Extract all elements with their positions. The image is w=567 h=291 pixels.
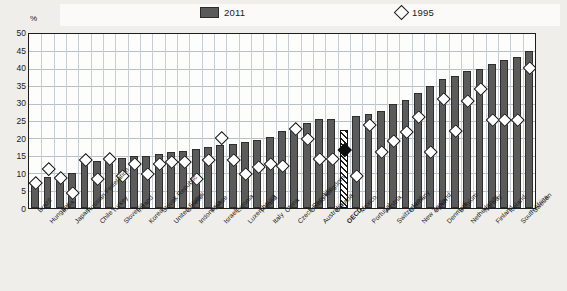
bar-slot[interactable] bbox=[276, 34, 288, 208]
y-axis-tick: 15 bbox=[0, 152, 26, 161]
bar-slot[interactable] bbox=[301, 34, 313, 208]
x-axis-tick-labels: BrazilHungaryIndiaJapanRussian Federatio… bbox=[28, 209, 536, 291]
bar-slot[interactable] bbox=[523, 34, 535, 208]
bar-slot[interactable] bbox=[449, 34, 461, 208]
bar-slot[interactable] bbox=[498, 34, 510, 208]
y-axis-tick: 35 bbox=[0, 82, 26, 91]
y-axis-tick: 50 bbox=[0, 29, 26, 38]
legend-bar-swatch-icon bbox=[200, 7, 219, 18]
bar-south-africa[interactable] bbox=[513, 57, 521, 208]
y-axis-tick: 25 bbox=[0, 117, 26, 126]
bar-slot[interactable] bbox=[375, 34, 387, 208]
bar-slot[interactable] bbox=[264, 34, 276, 208]
y-axis-tick: 0 bbox=[0, 205, 26, 214]
bar-poland[interactable] bbox=[253, 140, 261, 208]
bar-slot[interactable] bbox=[202, 34, 214, 208]
bar-finland[interactable] bbox=[488, 64, 496, 208]
y-axis-tick-labels: 50454035302520151050 bbox=[0, 33, 26, 209]
y-axis-tick: 40 bbox=[0, 64, 26, 73]
bar-slot[interactable] bbox=[473, 34, 485, 208]
bar-slot[interactable] bbox=[128, 34, 140, 208]
bar-slot[interactable] bbox=[350, 34, 362, 208]
bar-slot[interactable] bbox=[288, 34, 300, 208]
bar-slot[interactable] bbox=[227, 34, 239, 208]
bar-slot[interactable] bbox=[66, 34, 78, 208]
bar-slot[interactable] bbox=[399, 34, 411, 208]
bar-slot[interactable] bbox=[436, 34, 448, 208]
bar-belgium[interactable] bbox=[451, 76, 459, 208]
bar-slot[interactable] bbox=[251, 34, 263, 208]
legend-entry-1995: 1995 bbox=[396, 7, 434, 18]
bar-slot[interactable] bbox=[41, 34, 53, 208]
bar-slot[interactable] bbox=[140, 34, 152, 208]
bar-germany[interactable] bbox=[402, 100, 410, 208]
bar-switzerland[interactable] bbox=[389, 104, 397, 208]
y-axis-unit-label: % bbox=[30, 14, 37, 23]
y-axis-tick: 30 bbox=[0, 99, 26, 108]
bar-slot[interactable] bbox=[54, 34, 66, 208]
legend-diamond-icon bbox=[394, 5, 410, 21]
bar-iceland[interactable] bbox=[500, 60, 508, 208]
legend-entry-2011: 2011 bbox=[200, 7, 245, 18]
bar-slot[interactable] bbox=[29, 34, 41, 208]
bar-slot[interactable] bbox=[78, 34, 90, 208]
bar-slot[interactable] bbox=[387, 34, 399, 208]
bar-slot[interactable] bbox=[313, 34, 325, 208]
bar-slot[interactable] bbox=[412, 34, 424, 208]
bar-austria[interactable] bbox=[377, 111, 385, 208]
bar-slot[interactable] bbox=[486, 34, 498, 208]
bar-slot[interactable] bbox=[91, 34, 103, 208]
legend-label-2011: 2011 bbox=[224, 7, 245, 18]
bar-slot[interactable] bbox=[510, 34, 522, 208]
y-axis-tick: 5 bbox=[0, 187, 26, 196]
plot-area bbox=[28, 33, 536, 209]
x-axis-tick-label: Italy bbox=[271, 211, 285, 225]
x-axis-tick-label: Chile bbox=[98, 209, 114, 225]
y-axis-tick: 45 bbox=[0, 47, 26, 56]
bar-slot[interactable] bbox=[165, 34, 177, 208]
y-axis-tick: 10 bbox=[0, 170, 26, 179]
bar-slot[interactable] bbox=[461, 34, 473, 208]
plot-frame bbox=[28, 33, 536, 209]
bar-netherlands[interactable] bbox=[463, 71, 471, 208]
bar-sweden[interactable] bbox=[525, 51, 533, 208]
bar-slot[interactable] bbox=[239, 34, 251, 208]
bar-russian-federation[interactable] bbox=[81, 161, 89, 208]
legend-label-1995: 1995 bbox=[412, 7, 434, 18]
bar-slot[interactable] bbox=[362, 34, 374, 208]
bar-series-container bbox=[29, 34, 535, 208]
chart-legend: 2011 1995 bbox=[60, 4, 560, 26]
bar-slot[interactable] bbox=[152, 34, 164, 208]
bar-slot[interactable] bbox=[214, 34, 226, 208]
bar-slot[interactable] bbox=[424, 34, 436, 208]
y-axis-tick: 20 bbox=[0, 135, 26, 144]
